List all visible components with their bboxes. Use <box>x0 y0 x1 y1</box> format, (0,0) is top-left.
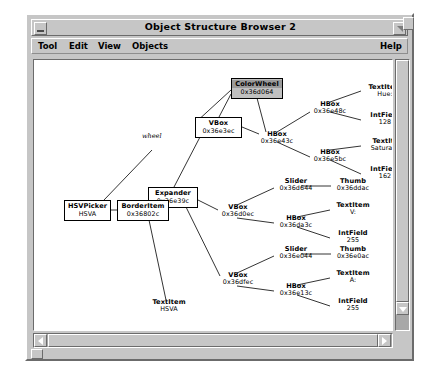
vbox-a-node[interactable]: VBox 0x36dfec <box>216 272 260 286</box>
scroll-down-arrow-icon[interactable] <box>396 302 409 315</box>
hsvpicker-node-type: HSVPicker <box>65 202 110 210</box>
borderitem-node[interactable]: BorderItem 0x36802c <box>117 200 169 221</box>
scroll-right-arrow-icon[interactable] <box>378 334 391 347</box>
hsvpicker-node-address: HSVA <box>65 210 110 218</box>
intfield-hue-node-value: 128 <box>360 119 393 126</box>
hbox-v-node[interactable]: HBox 0x36da3c <box>274 215 318 229</box>
hbox-sat-node[interactable]: HBox 0x36e5bc <box>308 149 352 163</box>
textitem-hue-node-value: Hue: <box>360 91 393 98</box>
hsvpicker-node[interactable]: HSVPicker HSVA <box>64 200 111 221</box>
textitem-hsva-node[interactable]: TextItem HSVA <box>144 299 194 313</box>
horizontal-scrollbar-thumb[interactable] <box>48 334 378 347</box>
window-close-button[interactable] <box>403 17 414 30</box>
colorwheel-node-address: 0x36d064 <box>232 88 282 96</box>
menu-item-help[interactable]: Help <box>380 41 402 51</box>
thumb-v-node-address: 0x36ddac <box>331 185 375 192</box>
textitem-a-node[interactable]: TextItem A: <box>331 270 375 284</box>
thumb-a-node-address: 0x36e0ac <box>331 253 375 260</box>
resize-grip[interactable] <box>31 349 43 359</box>
textitem-a-node-value: A: <box>331 277 375 284</box>
thumb-v-node[interactable]: Thumb 0x36ddac <box>331 178 375 192</box>
vbox-top-node-type: VBox <box>196 119 241 127</box>
textitem-hue-node[interactable]: TextItem Hue: <box>360 84 393 98</box>
menu-item-objects[interactable]: Objects <box>132 41 168 51</box>
intfield-a-node[interactable]: IntField 255 <box>331 298 375 312</box>
borderitem-node-type: BorderItem <box>118 202 168 210</box>
horizontal-scrollbar[interactable] <box>33 333 393 348</box>
edge-label-wheel: wheel <box>142 132 162 140</box>
textitem-saturation-node-value: Saturation: <box>360 145 393 152</box>
hbox-a2-node-address: 0x36e13c <box>274 290 318 297</box>
menu-bar: Tool Edit View Objects Help <box>31 38 408 54</box>
textitem-saturation-node[interactable]: TextItem Saturation: <box>360 138 393 152</box>
vbox-top-node-address: 0x36e3ec <box>196 127 241 135</box>
expander-node-type: Expander <box>149 189 197 197</box>
hbox-a-node-address: 0x36e43c <box>255 138 299 145</box>
menu-item-tool[interactable]: Tool <box>38 41 57 51</box>
hbox-a-node[interactable]: HBox 0x36e43c <box>255 131 299 145</box>
textitem-hsva-node-value: HSVA <box>144 306 194 313</box>
hbox-hue-node-address: 0x36e48c <box>308 108 352 115</box>
slider-a-node-address: 0x36e044 <box>274 253 318 260</box>
textitem-v-node-value: V: <box>331 209 375 216</box>
colorwheel-node[interactable]: ColorWheel 0x36d064 <box>231 78 283 99</box>
borderitem-node-address: 0x36802c <box>118 210 168 218</box>
vbox-top-node[interactable]: VBox 0x36e3ec <box>195 117 242 138</box>
screen: Object Structure Browser 2 Tool Edit Vie… <box>0 0 436 373</box>
vertical-scrollbar-thumb[interactable] <box>396 60 409 302</box>
slider-v-node-address: 0x36d644 <box>274 185 318 192</box>
intfield-a-node-value: 255 <box>331 305 375 312</box>
scrollbar-corner <box>395 333 410 348</box>
graph-canvas[interactable]: wheel ColorWheel 0x36d064 VBox 0x36e3ec … <box>33 59 393 331</box>
slider-a-node[interactable]: Slider 0x36e044 <box>274 246 318 260</box>
intfield-v-node-value: 255 <box>331 237 375 244</box>
slider-v-node[interactable]: Slider 0x36d644 <box>274 178 318 192</box>
scroll-left-arrow-icon[interactable] <box>34 334 47 347</box>
window-title: Object Structure Browser 2 <box>32 21 409 32</box>
vbox-v-node-address: 0x36d0ec <box>216 211 260 218</box>
colorwheel-node-type: ColorWheel <box>232 80 282 88</box>
application-window: Object Structure Browser 2 Tool Edit Vie… <box>25 13 414 361</box>
menu-item-edit[interactable]: Edit <box>69 41 88 51</box>
intfield-v-node[interactable]: IntField 255 <box>331 230 375 244</box>
thumb-a-node[interactable]: Thumb 0x36e0ac <box>331 246 375 260</box>
title-bar[interactable]: Object Structure Browser 2 <box>31 19 408 36</box>
vbox-a-node-address: 0x36dfec <box>216 279 260 286</box>
hbox-hue-node[interactable]: HBox 0x36e48c <box>308 101 352 115</box>
menu-item-view[interactable]: View <box>98 41 121 51</box>
textitem-v-node[interactable]: TextItem V: <box>331 202 375 216</box>
hbox-sat-node-address: 0x36e5bc <box>308 156 352 163</box>
intfield-hue-node[interactable]: IntField 128 <box>360 112 393 126</box>
vertical-scrollbar[interactable] <box>395 59 410 331</box>
hbox-a2-node[interactable]: HBox 0x36e13c <box>274 283 318 297</box>
hbox-v-node-address: 0x36da3c <box>274 222 318 229</box>
vbox-v-node[interactable]: VBox 0x36d0ec <box>216 204 260 218</box>
